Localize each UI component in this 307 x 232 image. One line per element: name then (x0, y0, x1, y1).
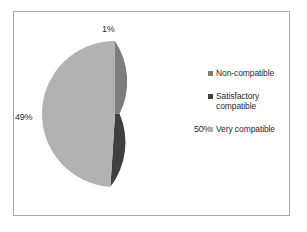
legend-label-non-compatible: Non-compatible (216, 68, 274, 79)
legend-swatch-icon (208, 71, 213, 76)
legend-swatch-icon (208, 94, 213, 99)
data-label-non-compatible: 1% (102, 24, 115, 34)
legend-label-very-compatible: Very compatible (216, 124, 275, 135)
legend-item-satisfactory-compatible[interactable]: Satisfactory compatible (208, 91, 292, 112)
legend-item-very-compatible[interactable]: Very compatible (208, 124, 292, 135)
chart-legend: Non-compatible Satisfactory compatible V… (208, 68, 292, 146)
pie-slice-very-compatible[interactable] (42, 41, 115, 187)
legend-item-non-compatible[interactable]: Non-compatible (208, 68, 292, 79)
chart-frame: 1% 49% 50% Non-compatible Satisfactory c… (13, 11, 290, 216)
pie-slice-non-compatible[interactable] (115, 41, 127, 114)
pie-chart-graphic (42, 41, 188, 187)
data-label-very-compatible: 49% (15, 112, 32, 122)
pie-chart-plot-area: 1% 49% 50% Non-compatible Satisfactory c… (14, 12, 291, 217)
pie-svg (42, 41, 188, 187)
legend-label-satisfactory-compatible: Satisfactory compatible (216, 91, 292, 112)
legend-swatch-icon (208, 127, 213, 132)
